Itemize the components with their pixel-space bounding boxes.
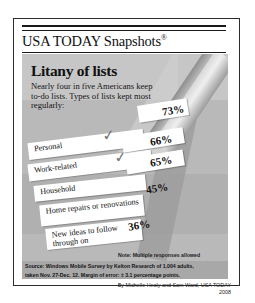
chart-note: Note: Multiple responses allowed — [118, 252, 200, 258]
masthead-rule-top — [22, 25, 226, 27]
source-line-1: Source: Windows Mobile Survey by Kelton … — [22, 261, 228, 270]
chart-panel: Litany of lists Nearly four in five Amer… — [22, 54, 228, 261]
masthead-rule-bottom — [22, 52, 226, 53]
chart-headline: Litany of lists — [31, 62, 157, 80]
source-band: Source: Windows Mobile Survey by Kelton … — [22, 261, 228, 279]
credit-authors: By Michelle Healy and Sam Ward, USA TODA… — [118, 282, 231, 289]
masthead-title: USA TODAY Snapshots® — [22, 33, 228, 50]
masthead-brand: USA TODAY Snapshots — [22, 33, 161, 49]
checkmark-icon-personal: ✓ — [101, 125, 116, 144]
source-line-2: taken Nov. 27-Dec. 12. Margin of error: … — [22, 270, 228, 279]
credit-year: 2008 — [118, 289, 231, 296]
registered-trademark-icon: ® — [161, 33, 167, 42]
credit-block: By Michelle Healy and Sam Ward, USA TODA… — [118, 282, 231, 296]
masthead-rule-top-thin — [22, 30, 226, 31]
snapshot-frame: USA TODAY Snapshots® Litany of lists Nea… — [13, 18, 240, 286]
